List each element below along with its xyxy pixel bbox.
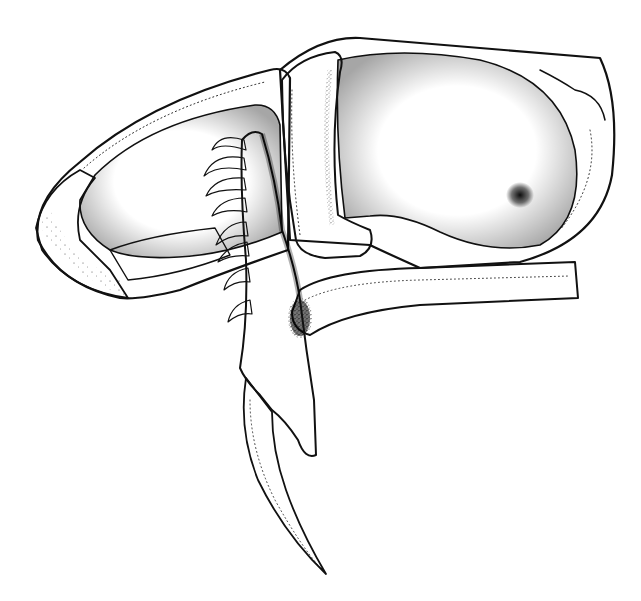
tarsal-rod: [288, 262, 578, 338]
dark-spot: [506, 182, 534, 208]
femur-right-lobe: [337, 53, 577, 248]
raptorial-foreleg-drawing: [0, 0, 641, 601]
illustration-canvas: Stippled pen-and-ink illustration of a r…: [0, 0, 641, 601]
